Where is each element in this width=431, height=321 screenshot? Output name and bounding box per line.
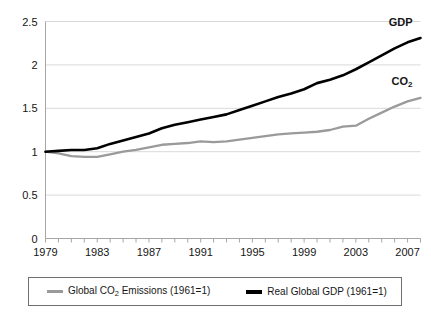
x-axis-ticks bbox=[46, 239, 421, 243]
legend-item-co2: Global CO2 Emissions (1961=1) bbox=[47, 286, 210, 298]
legend-item-gdp: Real Global GDP (1961=1) bbox=[246, 287, 387, 297]
legend-label-gdp: Real Global GDP (1961=1) bbox=[267, 287, 387, 297]
y-tick-label: 0.5 bbox=[22, 189, 37, 201]
x-tick-label: 1983 bbox=[85, 246, 109, 258]
y-tick-label: 1 bbox=[31, 146, 37, 158]
y-tick-label: 2.5 bbox=[22, 16, 37, 28]
y-tick-label: 2 bbox=[31, 59, 37, 71]
series-line-gdp bbox=[46, 38, 421, 152]
x-tick-label: 1991 bbox=[188, 246, 212, 258]
x-tick-label: 2007 bbox=[395, 246, 419, 258]
annotation-gdp-label: GDP bbox=[389, 16, 413, 28]
legend-swatch-co2-icon bbox=[47, 290, 63, 293]
x-tick-label: 2003 bbox=[344, 246, 368, 258]
gridlines bbox=[46, 22, 421, 239]
legend-swatch-gdp-icon bbox=[246, 290, 262, 294]
chart-container: 00.511.522.5 197919831987199119951999200… bbox=[0, 0, 431, 321]
x-tick-label: 1995 bbox=[240, 246, 264, 258]
x-axis-tick-labels: 19791983198719911995199920032007 bbox=[33, 246, 420, 258]
plot-area: 00.511.522.5 197919831987199119951999200… bbox=[0, 0, 431, 268]
y-tick-label: 1.5 bbox=[22, 102, 37, 114]
x-tick-label: 1987 bbox=[137, 246, 161, 258]
y-axis-tick-labels: 00.511.522.5 bbox=[22, 16, 37, 245]
x-tick-label: 1999 bbox=[292, 246, 316, 258]
annotation-co2-label: CO2 bbox=[392, 75, 414, 90]
legend-label-co2: Global CO2 Emissions (1961=1) bbox=[68, 286, 210, 298]
chart-legend: Global CO2 Emissions (1961=1) Real Globa… bbox=[28, 277, 402, 306]
data-series bbox=[46, 38, 421, 157]
series-annotations: GDPCO2 bbox=[389, 16, 413, 89]
line-chart-svg: 00.511.522.5 197919831987199119951999200… bbox=[0, 0, 431, 268]
x-tick-label: 1979 bbox=[33, 246, 57, 258]
y-tick-label: 0 bbox=[31, 233, 37, 245]
